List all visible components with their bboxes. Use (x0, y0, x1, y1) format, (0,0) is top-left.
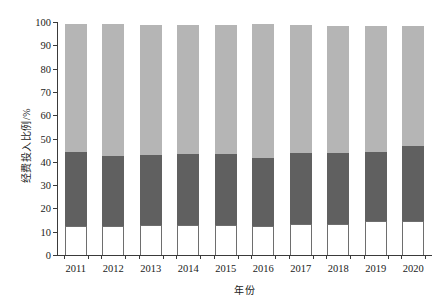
x-axis-tick (401, 255, 402, 259)
x-axis-tick-label: 2017 (290, 263, 311, 274)
bar-segment-middle (65, 152, 87, 226)
x-axis-tick (163, 255, 164, 259)
x-axis-tick-label: 2011 (65, 263, 86, 274)
bar-segment-top (177, 25, 199, 154)
x-axis-tick (125, 255, 126, 259)
bar-segment-bottom (402, 221, 424, 255)
x-axis-tick (425, 255, 426, 259)
x-axis-tick (289, 255, 290, 259)
bar-2020 (402, 22, 424, 255)
x-axis-tick (176, 255, 177, 259)
x-axis-tick-label: 2015 (215, 263, 236, 274)
x-axis-tick (101, 255, 102, 259)
bar-segment-top (402, 26, 424, 145)
x-axis-tick (64, 255, 65, 259)
bar-segment-bottom (102, 226, 124, 255)
bar-segment-bottom (252, 226, 274, 255)
y-axis-tick-label: 30 (41, 180, 52, 191)
x-axis-tick-label: 2020 (403, 263, 424, 274)
bar-segment-top (327, 26, 349, 154)
x-axis-tick (139, 255, 140, 259)
x-axis-line (57, 255, 432, 256)
bar-segment-top (365, 26, 387, 152)
bar-segment-bottom (177, 225, 199, 255)
y-axis-tick-label: 70 (41, 86, 52, 97)
bar-segment-bottom (65, 226, 87, 255)
y-axis-tick-label: 50 (41, 133, 52, 144)
x-axis-tick (388, 255, 389, 259)
bar-segment-bottom (327, 224, 349, 255)
y-axis-tick (53, 255, 57, 256)
y-axis-tick (53, 162, 57, 163)
y-axis-tick-label: 10 (41, 226, 52, 237)
bar-segment-top (140, 25, 162, 155)
bar-segment-middle (327, 153, 349, 223)
y-axis-tick (53, 45, 57, 46)
x-axis-tick (326, 255, 327, 259)
y-axis-tick-label: 60 (41, 110, 52, 121)
bar-segment-middle (402, 146, 424, 221)
x-axis-tick (200, 255, 201, 259)
y-axis-tick-label: 20 (41, 203, 52, 214)
x-axis-tick-label: 2019 (365, 263, 386, 274)
x-axis-tick (313, 255, 314, 259)
x-axis-tick (251, 255, 252, 259)
y-axis-tick (53, 22, 57, 23)
x-axis-tick (350, 255, 351, 259)
bar-segment-bottom (215, 225, 237, 255)
y-axis-tick (53, 92, 57, 93)
bar-segment-top (65, 24, 87, 152)
y-axis-tick-label: 0 (46, 250, 51, 261)
y-axis-tick (53, 185, 57, 186)
bar-2016 (252, 22, 274, 255)
plot-area: 0102030405060708090100 20112012201320142… (57, 22, 432, 255)
y-axis-title: 经费投入比例/% (18, 66, 33, 226)
bar-segment-middle (290, 153, 312, 224)
y-axis-tick (53, 232, 57, 233)
x-axis-tick-label: 2016 (253, 263, 274, 274)
bar-segment-middle (177, 154, 199, 225)
y-axis-tick (53, 139, 57, 140)
y-axis-line (57, 22, 58, 255)
y-axis-tick (53, 115, 57, 116)
stacked-bar-chart: 经费投入比例/% 0102030405060708090100 20112012… (0, 0, 438, 308)
y-axis-tick-label: 100 (35, 17, 51, 28)
bar-2017 (290, 22, 312, 255)
bar-2015 (215, 22, 237, 255)
bar-segment-bottom (365, 221, 387, 255)
y-axis-tick-label: 90 (41, 40, 52, 51)
bar-2019 (365, 22, 387, 255)
x-axis-tick (238, 255, 239, 259)
bar-segment-middle (140, 155, 162, 225)
y-axis-tick-label: 40 (41, 156, 52, 167)
bar-segment-top (215, 25, 237, 155)
bar-segment-top (102, 24, 124, 155)
bar-2011 (65, 22, 87, 255)
bar-segment-middle (252, 158, 274, 226)
x-axis-tick (275, 255, 276, 259)
x-axis-tick (88, 255, 89, 259)
y-axis-tick (53, 69, 57, 70)
bar-segment-top (252, 24, 274, 158)
x-axis-tick (364, 255, 365, 259)
bar-segment-bottom (140, 225, 162, 255)
y-axis-tick-label: 80 (41, 63, 52, 74)
bar-2018 (327, 22, 349, 255)
x-axis-tick-label: 2018 (328, 263, 349, 274)
y-axis-tick (53, 208, 57, 209)
x-axis-title: 年份 (57, 282, 432, 297)
x-axis-tick-label: 2013 (140, 263, 161, 274)
x-axis-tick (214, 255, 215, 259)
bar-segment-middle (215, 154, 237, 225)
x-axis-tick-label: 2014 (178, 263, 199, 274)
x-axis-tick-label: 2012 (103, 263, 124, 274)
bar-segment-middle (365, 152, 387, 221)
bar-segment-middle (102, 156, 124, 226)
bar-2013 (140, 22, 162, 255)
bar-segment-bottom (290, 224, 312, 255)
bar-2012 (102, 22, 124, 255)
bar-2014 (177, 22, 199, 255)
bar-segment-top (290, 25, 312, 153)
